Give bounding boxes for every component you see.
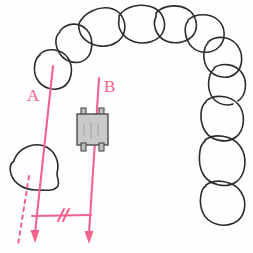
tooth-outline xyxy=(154,6,196,43)
arch-drawing-canvas xyxy=(0,0,253,253)
expansion-appliance xyxy=(77,108,108,151)
label-line-a: A xyxy=(27,87,39,104)
appliance-post-icon xyxy=(81,143,86,151)
dashed-reference-line xyxy=(18,176,29,245)
dental-arch-figure: A B xyxy=(0,0,253,253)
tooth-outline xyxy=(204,37,242,77)
tooth-outline xyxy=(209,69,233,105)
tooth-outline xyxy=(201,96,243,140)
line-b-arrowhead xyxy=(85,231,94,244)
tooth-outline xyxy=(199,136,245,186)
tooth-outline xyxy=(214,65,245,101)
tooth-outline-isolated xyxy=(10,145,58,191)
tooth-outline-group xyxy=(10,5,245,225)
label-line-b: B xyxy=(104,78,115,95)
line-b xyxy=(89,78,99,234)
tooth-outline xyxy=(56,24,92,62)
tooth-outline xyxy=(200,181,244,225)
appliance-post-icon xyxy=(99,143,104,151)
line-a-arrowhead xyxy=(31,230,40,243)
appliance-body xyxy=(77,114,108,145)
